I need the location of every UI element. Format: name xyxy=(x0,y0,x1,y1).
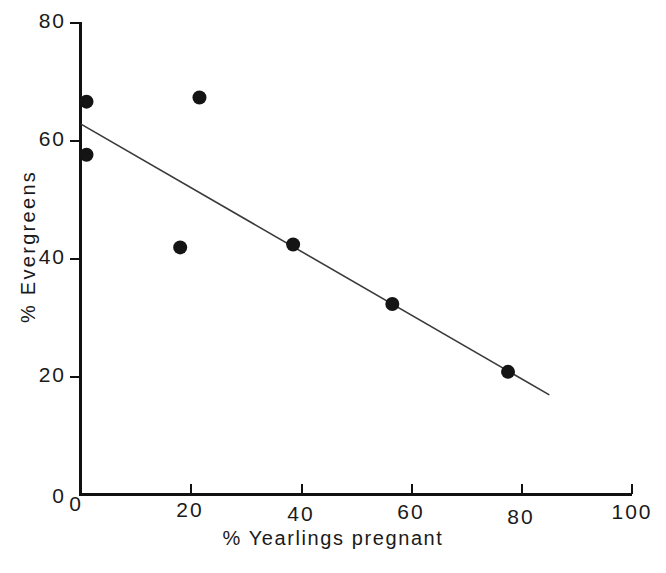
data-points-group xyxy=(80,91,516,379)
data-point xyxy=(80,95,94,109)
scatter-plot-figure: 80 60 40 20 0 0 20 40 60 80 100 % Evergr… xyxy=(0,0,666,573)
plot-data-layer xyxy=(0,0,666,573)
data-point xyxy=(173,240,187,254)
data-point xyxy=(192,91,206,105)
data-point xyxy=(286,237,300,251)
data-point xyxy=(80,148,94,162)
regression-line xyxy=(81,124,549,395)
data-point xyxy=(385,297,399,311)
data-point xyxy=(501,365,515,379)
